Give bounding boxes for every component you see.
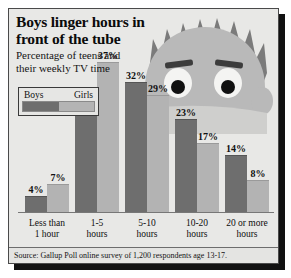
legend-label-boys: Boys xyxy=(24,90,44,100)
bar-girls xyxy=(97,62,119,213)
x-axis-label: Less than1 hour xyxy=(22,215,72,247)
bar-value-label: 8% xyxy=(251,168,266,179)
bar-boys xyxy=(25,196,47,213)
bar-girls xyxy=(47,184,69,213)
x-axis-label-line: 20 or more xyxy=(222,218,272,229)
bar-boys xyxy=(125,82,147,213)
bar-group: 23%17% xyxy=(172,35,222,213)
subtitle-block: Percentage of teens and their weekly TV … xyxy=(16,49,166,74)
infographic-chart-panel: Boys linger hours in front of the tube P… xyxy=(8,8,279,264)
bar-value-label: 7% xyxy=(51,172,66,183)
legend-label-girls: Girls xyxy=(74,90,93,100)
legend-swatch-boys xyxy=(23,102,59,111)
bar-group: 14%8% xyxy=(222,35,272,213)
x-axis-label-line: 1 hour xyxy=(22,229,72,240)
subtitle-line-1: Percentage of teens and xyxy=(16,49,166,62)
page-title-line-1: Boys linger hours in xyxy=(16,14,166,31)
bar-girls xyxy=(147,95,169,213)
source-footnote-band: Source: Gallup Poll online survey of 1,2… xyxy=(9,247,278,263)
x-axis-label: 10-20hours xyxy=(172,215,222,247)
bar-girls xyxy=(247,180,269,213)
bar-column-boys: 23% xyxy=(175,35,197,213)
x-axis-category-labels: Less than1 hour1-5hours5-10hours10-20hou… xyxy=(22,215,272,247)
headline-block: Boys linger hours in front of the tube P… xyxy=(16,14,166,74)
chart-legend: Boys Girls xyxy=(18,87,99,116)
legend-swatch-girls xyxy=(59,102,95,111)
figure-drop-shadow-bottom xyxy=(14,264,285,270)
x-axis-label-line: hours xyxy=(72,229,122,240)
bar-column-girls: 17% xyxy=(197,35,219,213)
legend-label-row: Boys Girls xyxy=(22,90,95,100)
x-axis-label: 1-5hours xyxy=(72,215,122,247)
bar-value-label: 14% xyxy=(226,143,246,154)
x-axis-label-line: hours xyxy=(122,229,172,240)
bar-value-label: 23% xyxy=(176,107,196,118)
bar-boys xyxy=(225,155,247,213)
bar-column-boys: 14% xyxy=(225,35,247,213)
bar-pair: 23%17% xyxy=(172,35,222,213)
bar-value-label: 29% xyxy=(148,83,168,94)
bar-pair: 14%8% xyxy=(222,35,272,213)
x-axis-label-line: 10-20 xyxy=(172,218,222,229)
x-axis-label-line: 1-5 xyxy=(72,218,122,229)
x-axis-line xyxy=(18,212,274,213)
bar-value-label: 4% xyxy=(29,184,44,195)
x-axis-label-line: 5-10 xyxy=(122,218,172,229)
page-title-line-2: front of the tube xyxy=(16,31,166,48)
bar-value-label: 17% xyxy=(198,131,218,142)
bar-column-girls: 8% xyxy=(247,35,269,213)
bar-boys xyxy=(75,103,97,213)
x-axis-label: 5-10hours xyxy=(122,215,172,247)
subtitle-line-2: their weekly TV time xyxy=(16,62,166,75)
x-axis-label-line: hours xyxy=(172,229,222,240)
bar-girls xyxy=(197,143,219,213)
figure-drop-shadow-right xyxy=(279,14,285,270)
x-axis-label-line: Less than xyxy=(22,218,72,229)
legend-swatch-row xyxy=(22,101,95,112)
x-axis-label-line: hours xyxy=(222,229,272,240)
x-axis-label: 20 or morehours xyxy=(222,215,272,247)
bar-boys xyxy=(175,119,197,213)
source-footnote-text: Source: Gallup Poll online survey of 1,2… xyxy=(9,251,227,260)
